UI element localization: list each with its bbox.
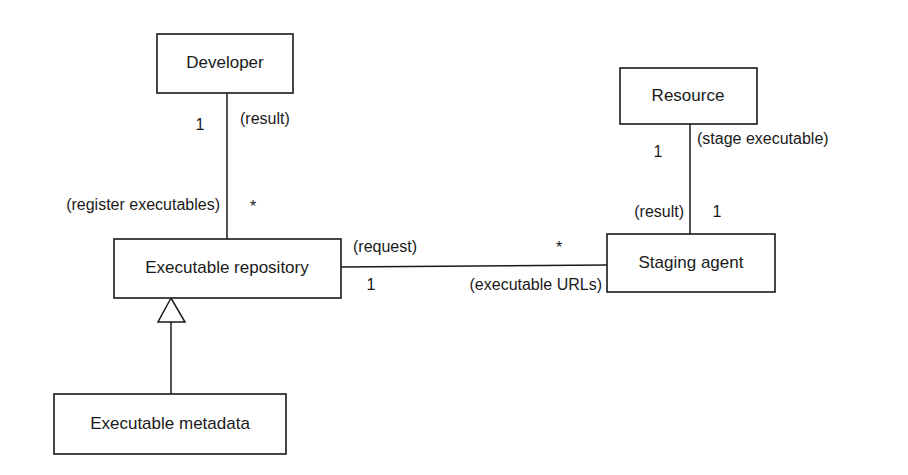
multiplicity-resource-end: 1	[654, 143, 663, 160]
association-repository-staging-agent	[341, 265, 607, 267]
role-request: (request)	[353, 238, 417, 255]
role-repository-end: (register executables)	[66, 196, 220, 213]
generalization-triangle-icon	[158, 298, 185, 322]
multiplicity-repository-end: *	[250, 198, 256, 215]
class-executable-repository[interactable]: Executable repository	[114, 239, 341, 298]
role-stage-executable: (stage executable)	[697, 130, 829, 147]
role-executable-urls: (executable URLs)	[470, 276, 603, 293]
class-developer-label: Developer	[186, 53, 264, 72]
class-resource[interactable]: Resource	[620, 68, 757, 124]
class-executable-metadata-label: Executable metadata	[90, 414, 250, 433]
uml-class-diagram: Developer Executable repository Executab…	[0, 0, 908, 475]
role-staging-agent-result: (result)	[634, 203, 684, 220]
class-staging-agent[interactable]: Staging agent	[607, 234, 775, 292]
class-resource-label: Resource	[652, 86, 725, 105]
class-developer[interactable]: Developer	[157, 34, 293, 93]
class-staging-agent-label: Staging agent	[639, 253, 744, 272]
multiplicity-staging-agent-resource-end: 1	[713, 203, 722, 220]
role-developer-end: (result)	[240, 110, 290, 127]
multiplicity-staging-agent-end: *	[556, 239, 562, 256]
class-executable-repository-label: Executable repository	[145, 258, 309, 277]
multiplicity-developer-end: 1	[196, 116, 205, 133]
multiplicity-repository-request-end: 1	[367, 276, 376, 293]
class-executable-metadata[interactable]: Executable metadata	[54, 394, 286, 454]
